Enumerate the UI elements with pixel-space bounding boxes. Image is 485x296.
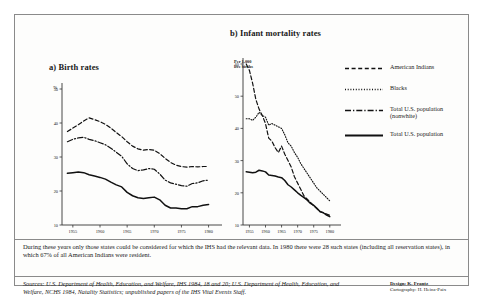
legend-key-dotted [345, 85, 383, 94]
y-tick-label: 20 [54, 189, 58, 194]
legend-label: American Indians [390, 63, 434, 70]
legend-key-solid [345, 131, 383, 140]
legend-key-dash-dot [345, 106, 383, 115]
legend-label: Blacks [390, 84, 407, 91]
legend: American Indians Blacks Total U.S. popul… [345, 63, 470, 151]
y-tick-label: 10 [235, 223, 239, 228]
y-tick-label: 40 [235, 126, 239, 131]
y-tick-label: 50 [235, 94, 239, 99]
y-tick-label: 60 [235, 62, 239, 67]
x-tick-label: 1965 [123, 229, 132, 234]
y-tick-label: 30 [54, 155, 58, 160]
x-tick-label: 1975 [309, 229, 318, 234]
x-tick-label: 1980 [325, 229, 334, 234]
figure-sources: Sources: U.S. Department of Health, Educ… [23, 280, 353, 296]
series-line [246, 112, 330, 201]
y-tick-label: 40 [54, 121, 58, 126]
x-tick-label: 1970 [150, 229, 159, 234]
x-tick-label: 1960 [96, 229, 105, 234]
x-tick-label: 1955 [245, 229, 254, 234]
x-tick-label: 1955 [69, 229, 78, 234]
legend-item: Blacks [345, 84, 470, 94]
legend-label: Total U.S. population (nonwhite) [390, 105, 443, 119]
legend-item: American Indians [345, 63, 470, 73]
figure-credit: Design: K. Frantz Cartography: H. Heinz-… [390, 281, 468, 294]
y-tick-label: 20 [235, 190, 239, 195]
series-line [246, 170, 330, 216]
x-tick-label: 1975 [177, 229, 186, 234]
credit-cartography: Cartography: H. Heinz-Paix [390, 287, 468, 293]
y-tick-label: 50 [54, 87, 58, 92]
figure-frame: a) Birth rates b) Infant mortality rates… [14, 14, 469, 286]
x-tick-label: 1980 [204, 229, 213, 234]
legend-item: Total U.S. population (nonwhite) [345, 105, 470, 119]
divider-bottom [15, 276, 468, 277]
series-line [246, 64, 330, 215]
x-tick-label: 1965 [277, 229, 286, 234]
x-tick-label: 1970 [293, 229, 302, 234]
legend-item: Total U.S. population [345, 130, 470, 140]
y-tick-label: 30 [235, 158, 239, 163]
legend-key-dashed [345, 64, 383, 73]
divider-top [15, 239, 468, 240]
y-tick-label: 10 [54, 223, 58, 228]
charts-area: a) Birth rates b) Infant mortality rates… [15, 15, 468, 239]
figure-note: During these years only those states cou… [23, 243, 460, 259]
x-tick-label: 1960 [261, 229, 270, 234]
legend-label: Total U.S. population [390, 130, 443, 137]
